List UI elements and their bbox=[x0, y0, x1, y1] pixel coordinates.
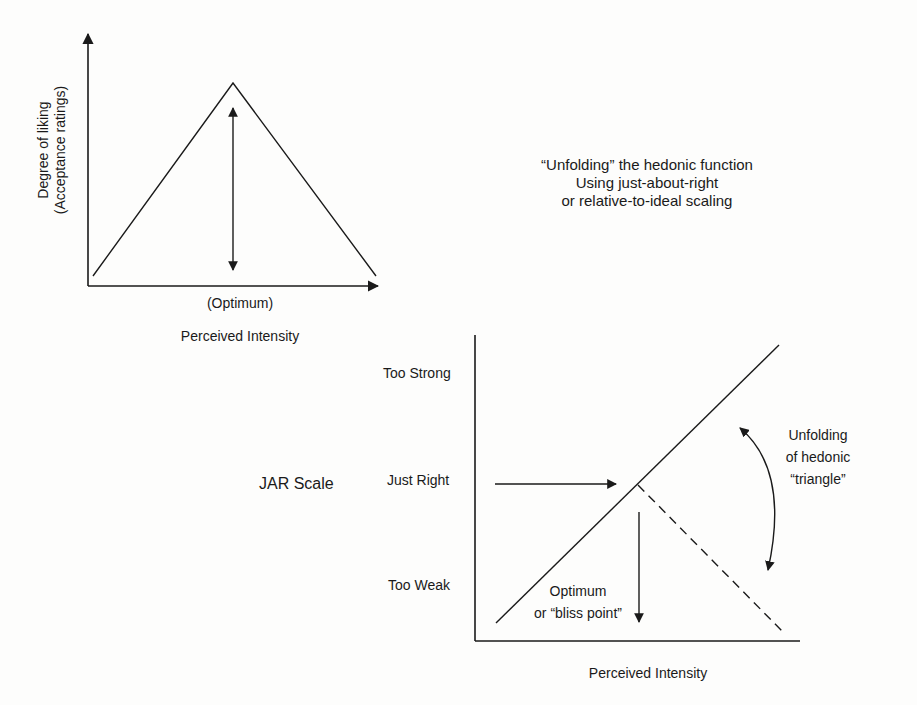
left-chart bbox=[88, 34, 378, 286]
y-tick-too-weak: Too Weak bbox=[388, 577, 450, 594]
title-line1: “Unfolding” the hedonic function bbox=[541, 156, 753, 174]
title-line2: Using just-about-right bbox=[541, 174, 753, 192]
bliss-point-label: Optimum or “bliss point” bbox=[534, 580, 622, 624]
left-x-axis-label: Perceived Intensity bbox=[181, 328, 299, 345]
right-x-axis-label: Perceived Intensity bbox=[589, 665, 707, 682]
bliss-line1: Optimum bbox=[534, 580, 622, 602]
folded-hedonic-dashed-line bbox=[638, 485, 783, 632]
y-label-line2: (Acceptance ratings) bbox=[52, 86, 69, 214]
title-line3: or relative-to-ideal scaling bbox=[541, 192, 753, 210]
unfolding-label: Unfolding of hedonic “triangle” bbox=[786, 424, 851, 490]
unfolding-curved-arrow bbox=[740, 428, 775, 570]
jar-scale-label: JAR Scale bbox=[259, 475, 334, 492]
diagram-canvas bbox=[0, 0, 917, 705]
unfold-line3: “triangle” bbox=[786, 468, 851, 490]
optimum-tick-label: (Optimum) bbox=[207, 295, 273, 312]
y-tick-just-right: Just Right bbox=[387, 472, 449, 489]
bliss-line2: or “bliss point” bbox=[534, 602, 622, 624]
left-y-axis-label: Degree of liking (Acceptance ratings) bbox=[35, 86, 69, 214]
right-chart-title: “Unfolding” the hedonic function Using j… bbox=[541, 156, 753, 210]
hedonic-triangle-line bbox=[93, 83, 376, 276]
unfold-line1: Unfolding bbox=[786, 424, 851, 446]
y-tick-too-strong: Too Strong bbox=[383, 365, 451, 382]
right-chart bbox=[475, 335, 800, 641]
unfold-line2: of hedonic bbox=[786, 446, 851, 468]
y-label-line1: Degree of liking bbox=[35, 86, 52, 214]
